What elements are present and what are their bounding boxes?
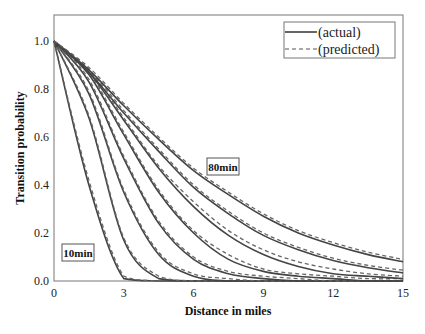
x-tick-label: 0 (51, 286, 57, 300)
y-axis-ticks: 0.00.20.40.60.81.0 (34, 34, 49, 288)
x-tick-label: 9 (260, 286, 266, 300)
y-tick-label: 0.4 (34, 178, 49, 192)
legend: (actual) (predicted) (284, 22, 395, 58)
annotation-10min-text: 10min (63, 247, 92, 259)
legend-predicted-label: (predicted) (318, 42, 380, 58)
annotation-80min-text: 80min (208, 161, 237, 173)
annotation-10min: 10min (62, 244, 94, 261)
x-axis-label: Distance in miles (185, 304, 272, 318)
line-chart: 0.00.20.40.60.81.0 03691215 Distance in … (0, 0, 425, 334)
x-tick-label: 12 (327, 286, 339, 300)
y-axis-label: Transition probability (13, 91, 27, 204)
x-tick-label: 3 (121, 286, 127, 300)
x-tick-label: 6 (191, 286, 197, 300)
y-tick-label: 0.2 (34, 226, 49, 240)
y-tick-label: 0.8 (34, 82, 49, 96)
y-tick-label: 0.0 (34, 274, 49, 288)
x-tick-label: 15 (397, 286, 409, 300)
annotation-80min: 80min (207, 158, 239, 175)
legend-actual-label: (actual) (318, 25, 361, 41)
y-tick-label: 1.0 (34, 34, 49, 48)
x-axis-ticks: 03691215 (51, 286, 409, 300)
y-tick-label: 0.6 (34, 130, 49, 144)
